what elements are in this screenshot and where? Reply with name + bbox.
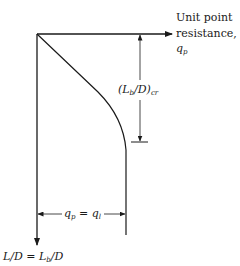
y-right: /D [51, 250, 64, 263]
limit-eq: = q [76, 207, 99, 220]
y-left: L/D = L [3, 250, 46, 263]
q-symbol: q [176, 42, 183, 55]
x-axis-label-line2: resistance, [176, 27, 237, 40]
cr-pre: (L [118, 83, 130, 96]
resistance-curve [37, 34, 126, 235]
x-axis-symbol: qp [176, 42, 188, 59]
p-subscript: p [183, 48, 187, 56]
critical-depth-label: (Lb/D)cr [118, 83, 158, 100]
x-axis-label-line1: Unit point [176, 11, 232, 24]
cr-sub-cr: cr [151, 89, 158, 97]
cr-mid: /D) [134, 83, 151, 96]
limit-q: q [64, 207, 71, 220]
y-axis-label: L/D = Lb/D [3, 250, 63, 266]
limit-sub-l: l [99, 213, 101, 221]
limit-label: qp = ql [64, 207, 101, 224]
